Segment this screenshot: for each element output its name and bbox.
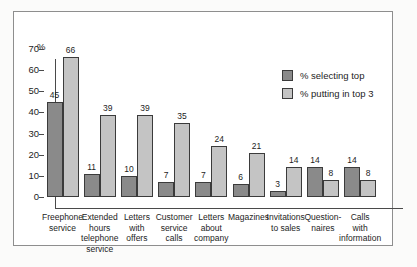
chart-legend: % selecting top% putting in top 3 (282, 68, 373, 104)
bar-value-label: 8 (356, 169, 380, 178)
bar-group: 1039 (121, 49, 153, 197)
legend-label: % selecting top (300, 70, 364, 81)
bar[interactable] (360, 180, 376, 197)
bar[interactable] (84, 174, 100, 197)
y-tick-label: 50 (3, 86, 39, 96)
bar[interactable] (137, 115, 153, 197)
bar-group: 735 (158, 49, 190, 197)
y-tick-label: 20 (3, 150, 39, 160)
y-tick-label-text: 20 (5, 150, 39, 160)
y-tick-label-text: 10 (5, 171, 39, 181)
bar[interactable] (121, 176, 137, 197)
bar-value-label: 39 (96, 104, 120, 113)
legend-swatch (282, 70, 293, 81)
bar-group: 724 (195, 49, 227, 197)
bar[interactable] (323, 180, 339, 197)
legend-swatch (282, 88, 293, 99)
y-tick-label: 40 (3, 107, 39, 117)
chart-figure: % 010203040506070 4566113910397357246213… (0, 0, 417, 267)
y-tick-label-text: 50 (5, 86, 39, 96)
y-tick-label-text: 40 (5, 107, 39, 117)
y-tick-label-text: 60 (5, 65, 39, 75)
y-tick-label: 30 (3, 129, 39, 139)
y-tick-label: 10 (3, 171, 39, 181)
bar[interactable] (174, 123, 190, 197)
legend-label: % putting in top 3 (300, 88, 373, 99)
bar-group: 621 (233, 49, 265, 197)
bar[interactable] (211, 146, 227, 197)
bar[interactable] (47, 102, 63, 197)
bar-value-label: 14 (340, 156, 364, 165)
bar[interactable] (270, 191, 286, 197)
bar[interactable] (249, 153, 265, 197)
bar-value-label: 21 (245, 142, 269, 151)
bar[interactable] (63, 57, 79, 197)
y-tick-label-text: 30 (5, 129, 39, 139)
x-category-label: Calls with information (338, 212, 382, 244)
y-tick-mark (39, 197, 44, 198)
bar[interactable] (286, 167, 302, 197)
bar[interactable] (195, 182, 211, 197)
bar-value-label: 66 (59, 46, 83, 55)
bar-value-label: 39 (133, 104, 157, 113)
bar-value-label: 14 (303, 156, 327, 165)
legend-item[interactable]: % selecting top (282, 68, 373, 83)
y-tick-label-text: 70 (5, 44, 39, 54)
bar[interactable] (100, 115, 116, 197)
y-tick-label: 70 (3, 44, 39, 54)
bar-group: 4566 (47, 49, 79, 197)
legend-item[interactable]: % putting in top 3 (282, 86, 373, 101)
chart-frame: % 010203040506070 4566113910397357246213… (13, 11, 393, 246)
x-axis-line (55, 208, 403, 209)
bar-value-label: 35 (170, 112, 194, 121)
bar-value-label: 8 (319, 169, 343, 178)
bar[interactable] (233, 184, 249, 197)
y-tick-label: 60 (3, 65, 39, 75)
bar-group: 1139 (84, 49, 116, 197)
y-tick-label-text: 0 (5, 192, 39, 202)
bar-value-label: 24 (207, 135, 231, 144)
bar[interactable] (158, 182, 174, 197)
y-tick-label: 0 (3, 192, 39, 202)
